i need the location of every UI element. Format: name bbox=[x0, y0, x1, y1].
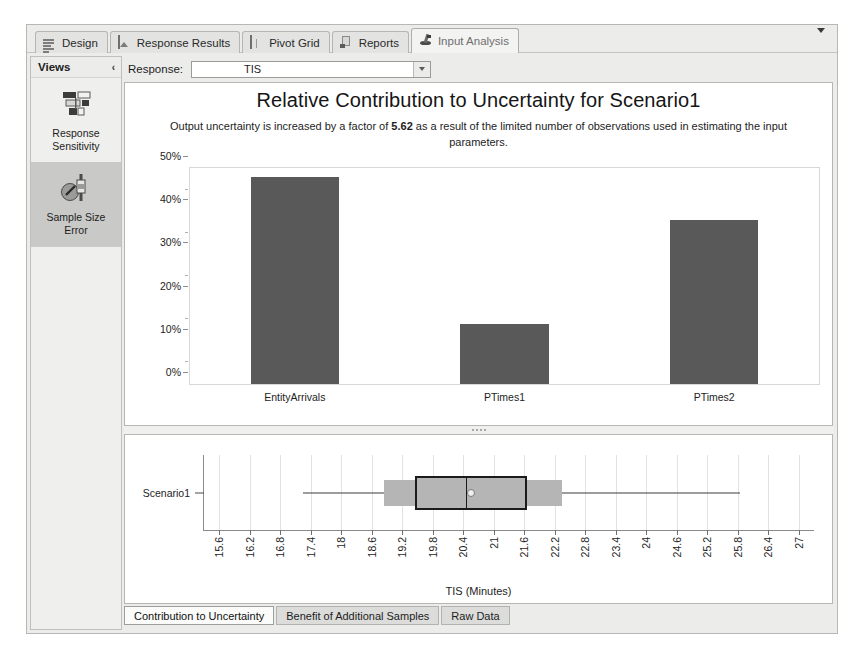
tab-reports[interactable]: Reports bbox=[332, 31, 409, 53]
y-axis-minor-tick bbox=[185, 361, 188, 362]
sidebar-item-response-sensitivity[interactable]: Response Sensitivity bbox=[31, 78, 121, 162]
bar-entityarrivals[interactable] bbox=[251, 177, 339, 384]
tabs-overflow-button[interactable] bbox=[817, 33, 829, 45]
category-label: Scenario1 bbox=[143, 487, 190, 499]
x-axis-tick-label: 20.4 bbox=[457, 537, 469, 557]
x-axis-tick bbox=[280, 530, 281, 535]
views-list: Response Sensitivity bbox=[31, 78, 121, 629]
tab-contribution-to-uncertainty[interactable]: Contribution to Uncertainty bbox=[124, 606, 274, 625]
tab-design[interactable]: Design bbox=[35, 31, 108, 53]
panel-splitter[interactable] bbox=[124, 427, 833, 433]
page-title: Relative Contribution to Uncertainty for… bbox=[125, 89, 832, 112]
x-axis-tick-label: 15.6 bbox=[213, 537, 225, 557]
x-axis-tick bbox=[433, 530, 434, 535]
content-pane: Response: TIS Relative Contribution to U… bbox=[124, 56, 833, 630]
x-gridline bbox=[799, 455, 800, 530]
x-axis-tick-label: 16.8 bbox=[274, 537, 286, 557]
y-axis-minor-tick bbox=[185, 189, 188, 190]
chart-subtitle-factor: 5.62 bbox=[391, 120, 412, 132]
x-axis-tick-label: PTimes1 bbox=[484, 391, 525, 403]
distribution-chart-panel: 15.616.216.817.41818.619.219.820.42121.6… bbox=[124, 434, 833, 604]
y-axis-tick-label: 40% bbox=[160, 193, 190, 205]
sidebar-item-sample-size-error-label-1: Sample Size bbox=[35, 211, 117, 224]
views-title: Views bbox=[38, 61, 70, 73]
x-axis-tick-label: 19.8 bbox=[427, 537, 439, 557]
x-axis-tick bbox=[250, 530, 251, 535]
x-axis-tick bbox=[494, 530, 495, 535]
x-axis-tick-label: 21.6 bbox=[518, 537, 530, 557]
tab-input-analysis[interactable]: Input Analysis bbox=[411, 28, 519, 53]
bar-ptimes1[interactable] bbox=[460, 324, 548, 384]
x-axis-tick bbox=[524, 530, 525, 535]
x-gridline bbox=[768, 455, 769, 530]
x-axis-tick-label: 22.8 bbox=[579, 537, 591, 557]
x-axis-tick bbox=[616, 530, 617, 535]
tab-benefit-of-additional-samples[interactable]: Benefit of Additional Samples bbox=[276, 606, 439, 625]
box-plot-xlabel: TIS (Minutes) bbox=[125, 585, 832, 597]
charts-area: Relative Contribution to Uncertainty for… bbox=[124, 82, 833, 604]
x-axis-tick bbox=[219, 530, 220, 535]
response-combobox[interactable]: TIS bbox=[191, 61, 431, 78]
sidebar-item-sample-size-error[interactable]: Sample Size Error bbox=[31, 162, 121, 246]
x-axis-tick bbox=[677, 530, 678, 535]
chart-subtitle: Output uncertainty is increased by a fac… bbox=[159, 119, 798, 151]
x-axis-tick-label: 23.4 bbox=[610, 537, 622, 557]
y-axis-tick-label: 20% bbox=[160, 280, 190, 292]
x-axis-tick bbox=[768, 530, 769, 535]
chart-subtitle-prefix: Output uncertainty is increased by a fac… bbox=[170, 120, 391, 132]
grid-icon bbox=[250, 36, 264, 50]
response-dropdown-button[interactable] bbox=[413, 62, 430, 77]
category-axis-tick bbox=[195, 492, 204, 493]
x-gridline bbox=[219, 455, 220, 530]
x-axis-tick-label: EntityArrivals bbox=[264, 391, 325, 403]
x-axis-tick bbox=[738, 530, 739, 535]
chevron-left-icon[interactable]: ‹ bbox=[112, 62, 115, 73]
x-axis-tick bbox=[463, 530, 464, 535]
x-axis-tick-label: 17.4 bbox=[305, 537, 317, 557]
x-axis-tick-label: 18.6 bbox=[366, 537, 378, 557]
x-axis-tick-label: 21 bbox=[488, 537, 500, 549]
tab-response-results-label: Response Results bbox=[137, 37, 230, 49]
x-axis-tick-label: PTimes2 bbox=[694, 391, 735, 403]
x-axis-tick-label: 27 bbox=[793, 537, 805, 549]
y-axis-minor-tick bbox=[185, 232, 188, 233]
x-axis-tick bbox=[311, 530, 312, 535]
bar-ptimes2[interactable] bbox=[670, 220, 758, 384]
response-bar: Response: TIS bbox=[124, 56, 833, 82]
y-axis-tick-label: 50% bbox=[160, 150, 190, 162]
response-label: Response: bbox=[128, 63, 183, 75]
x-axis-tick-label: 25.2 bbox=[701, 537, 713, 557]
mean-marker bbox=[467, 489, 475, 497]
input-analysis-window: Design Response Results Pivot Grid bbox=[26, 24, 838, 634]
x-axis-tick-label: 26.4 bbox=[762, 537, 774, 557]
sidebar-item-sample-size-error-label-2: Error bbox=[35, 224, 117, 237]
y-axis-minor-tick bbox=[185, 318, 188, 319]
box-plot: 15.616.216.817.41818.619.219.820.42121.6… bbox=[203, 455, 814, 531]
report-icon bbox=[340, 36, 354, 50]
response-value: TIS bbox=[192, 63, 261, 75]
x-axis-tick bbox=[372, 530, 373, 535]
views-panel: Views ‹ bbox=[30, 56, 122, 630]
tab-pivot-grid[interactable]: Pivot Grid bbox=[242, 31, 330, 53]
x-axis-tick-label: 19.2 bbox=[396, 537, 408, 557]
x-axis-tick bbox=[585, 530, 586, 535]
bottom-tab-strip: Contribution to Uncertainty Benefit of A… bbox=[124, 604, 833, 630]
tab-response-results[interactable]: Response Results bbox=[110, 31, 240, 53]
y-axis-tick-label: 0% bbox=[166, 366, 190, 378]
y-axis-tick-label: 10% bbox=[160, 323, 190, 335]
x-axis-tick bbox=[402, 530, 403, 535]
y-axis-tick-label: 30% bbox=[160, 236, 190, 248]
x-axis-tick-label: 16.2 bbox=[244, 537, 256, 557]
sample-size-error-icon bbox=[35, 170, 117, 206]
x-axis-tick bbox=[555, 530, 556, 535]
tab-reports-label: Reports bbox=[359, 37, 399, 49]
chevron-down-icon bbox=[817, 28, 825, 50]
bar-chart-plot: 0%10%20%30%40%50%EntityArrivalsPTimes1PT… bbox=[189, 167, 820, 385]
x-gridline bbox=[250, 455, 251, 530]
main-tab-strip: Design Response Results Pivot Grid bbox=[27, 25, 837, 53]
analysis-icon bbox=[419, 34, 433, 48]
lines-icon bbox=[43, 36, 57, 50]
tab-pivot-grid-label: Pivot Grid bbox=[269, 37, 320, 49]
x-gridline bbox=[280, 455, 281, 530]
tab-raw-data[interactable]: Raw Data bbox=[441, 606, 509, 625]
